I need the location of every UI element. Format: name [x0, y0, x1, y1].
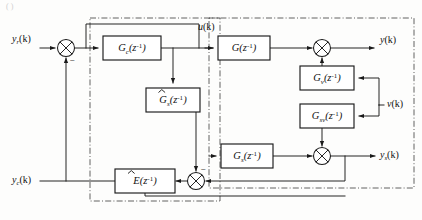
control-signal-label: u(k) — [198, 21, 215, 33]
sensor-noise-filter-label-arg: (z — [325, 110, 333, 122]
sensor-block-label-close: ) — [256, 150, 261, 162]
estimator-block-label-close: ) — [152, 175, 157, 187]
estimator-error-junction: − — [188, 164, 206, 189]
svg-text:Gs(z-1): Gs(z-1) — [233, 149, 261, 163]
disturbance-input-label: v(k) — [387, 98, 403, 110]
diagram-canvas: − − Gc(z-1) — [0, 0, 422, 220]
sensor-output-label: ys(k) — [379, 149, 399, 161]
estimated-output-label: yc(k) — [11, 174, 31, 186]
sensor-summing-junction — [314, 148, 331, 165]
soft-sensor-model-block[interactable]: Gs(z-1) — [146, 88, 200, 112]
process-block-label-arg: (z — [239, 42, 247, 54]
wire-v-to-noise-filter — [359, 78, 379, 105]
noise-filter-block[interactable]: Gv(z-1) — [300, 66, 354, 90]
wire-v-to-sensor-noise-filter — [359, 105, 379, 116]
process-block[interactable]: G(z-1) — [218, 36, 270, 60]
controller-block-label-close: ) — [141, 42, 146, 54]
soft-sensor-model-label-close: ) — [182, 94, 187, 106]
soft-sensor-model-label-arg: (z — [170, 94, 178, 106]
sensor-noise-filter-block[interactable]: Gsv(z-1) — [300, 104, 354, 128]
estimator-block-label-arg: (z — [140, 175, 148, 187]
process-block-label-close: ) — [252, 42, 257, 54]
sensor-block[interactable]: Gs(z-1) — [221, 144, 273, 168]
controller-block[interactable]: Gc(z-1) — [103, 36, 161, 60]
input-sum-minus-sign: − — [69, 55, 74, 65]
svg-text:G(z-1): G(z-1) — [232, 41, 257, 54]
noise-filter-label-arg: (z — [324, 72, 332, 84]
sensor-block-label-arg: (z — [244, 150, 252, 162]
process-output-label: y(k) — [379, 34, 396, 46]
estimator-block[interactable]: E(z-1) — [115, 169, 175, 193]
block-diagram-figure: − − Gc(z-1) — [0, 0, 422, 220]
svg-text:E(z-1): E(z-1) — [132, 174, 157, 187]
reference-input-label: yr(k) — [11, 33, 31, 45]
svg-text:Gsv(z-1): Gsv(z-1) — [312, 109, 343, 123]
output-summing-junction — [314, 40, 331, 57]
controller-block-label-arg: (z — [129, 42, 137, 54]
svg-text:Gs(z-1): Gs(z-1) — [159, 93, 187, 107]
sensor-noise-filter-label-close: ) — [338, 110, 343, 122]
scan-artifact-text: ( ) — [6, 2, 14, 11]
svg-text:Gc(z-1): Gc(z-1) — [118, 41, 146, 55]
error-junction-minus-sign: − — [200, 164, 205, 174]
noise-filter-label-close: ) — [336, 72, 341, 84]
svg-text:Gv(z-1): Gv(z-1) — [313, 71, 341, 85]
